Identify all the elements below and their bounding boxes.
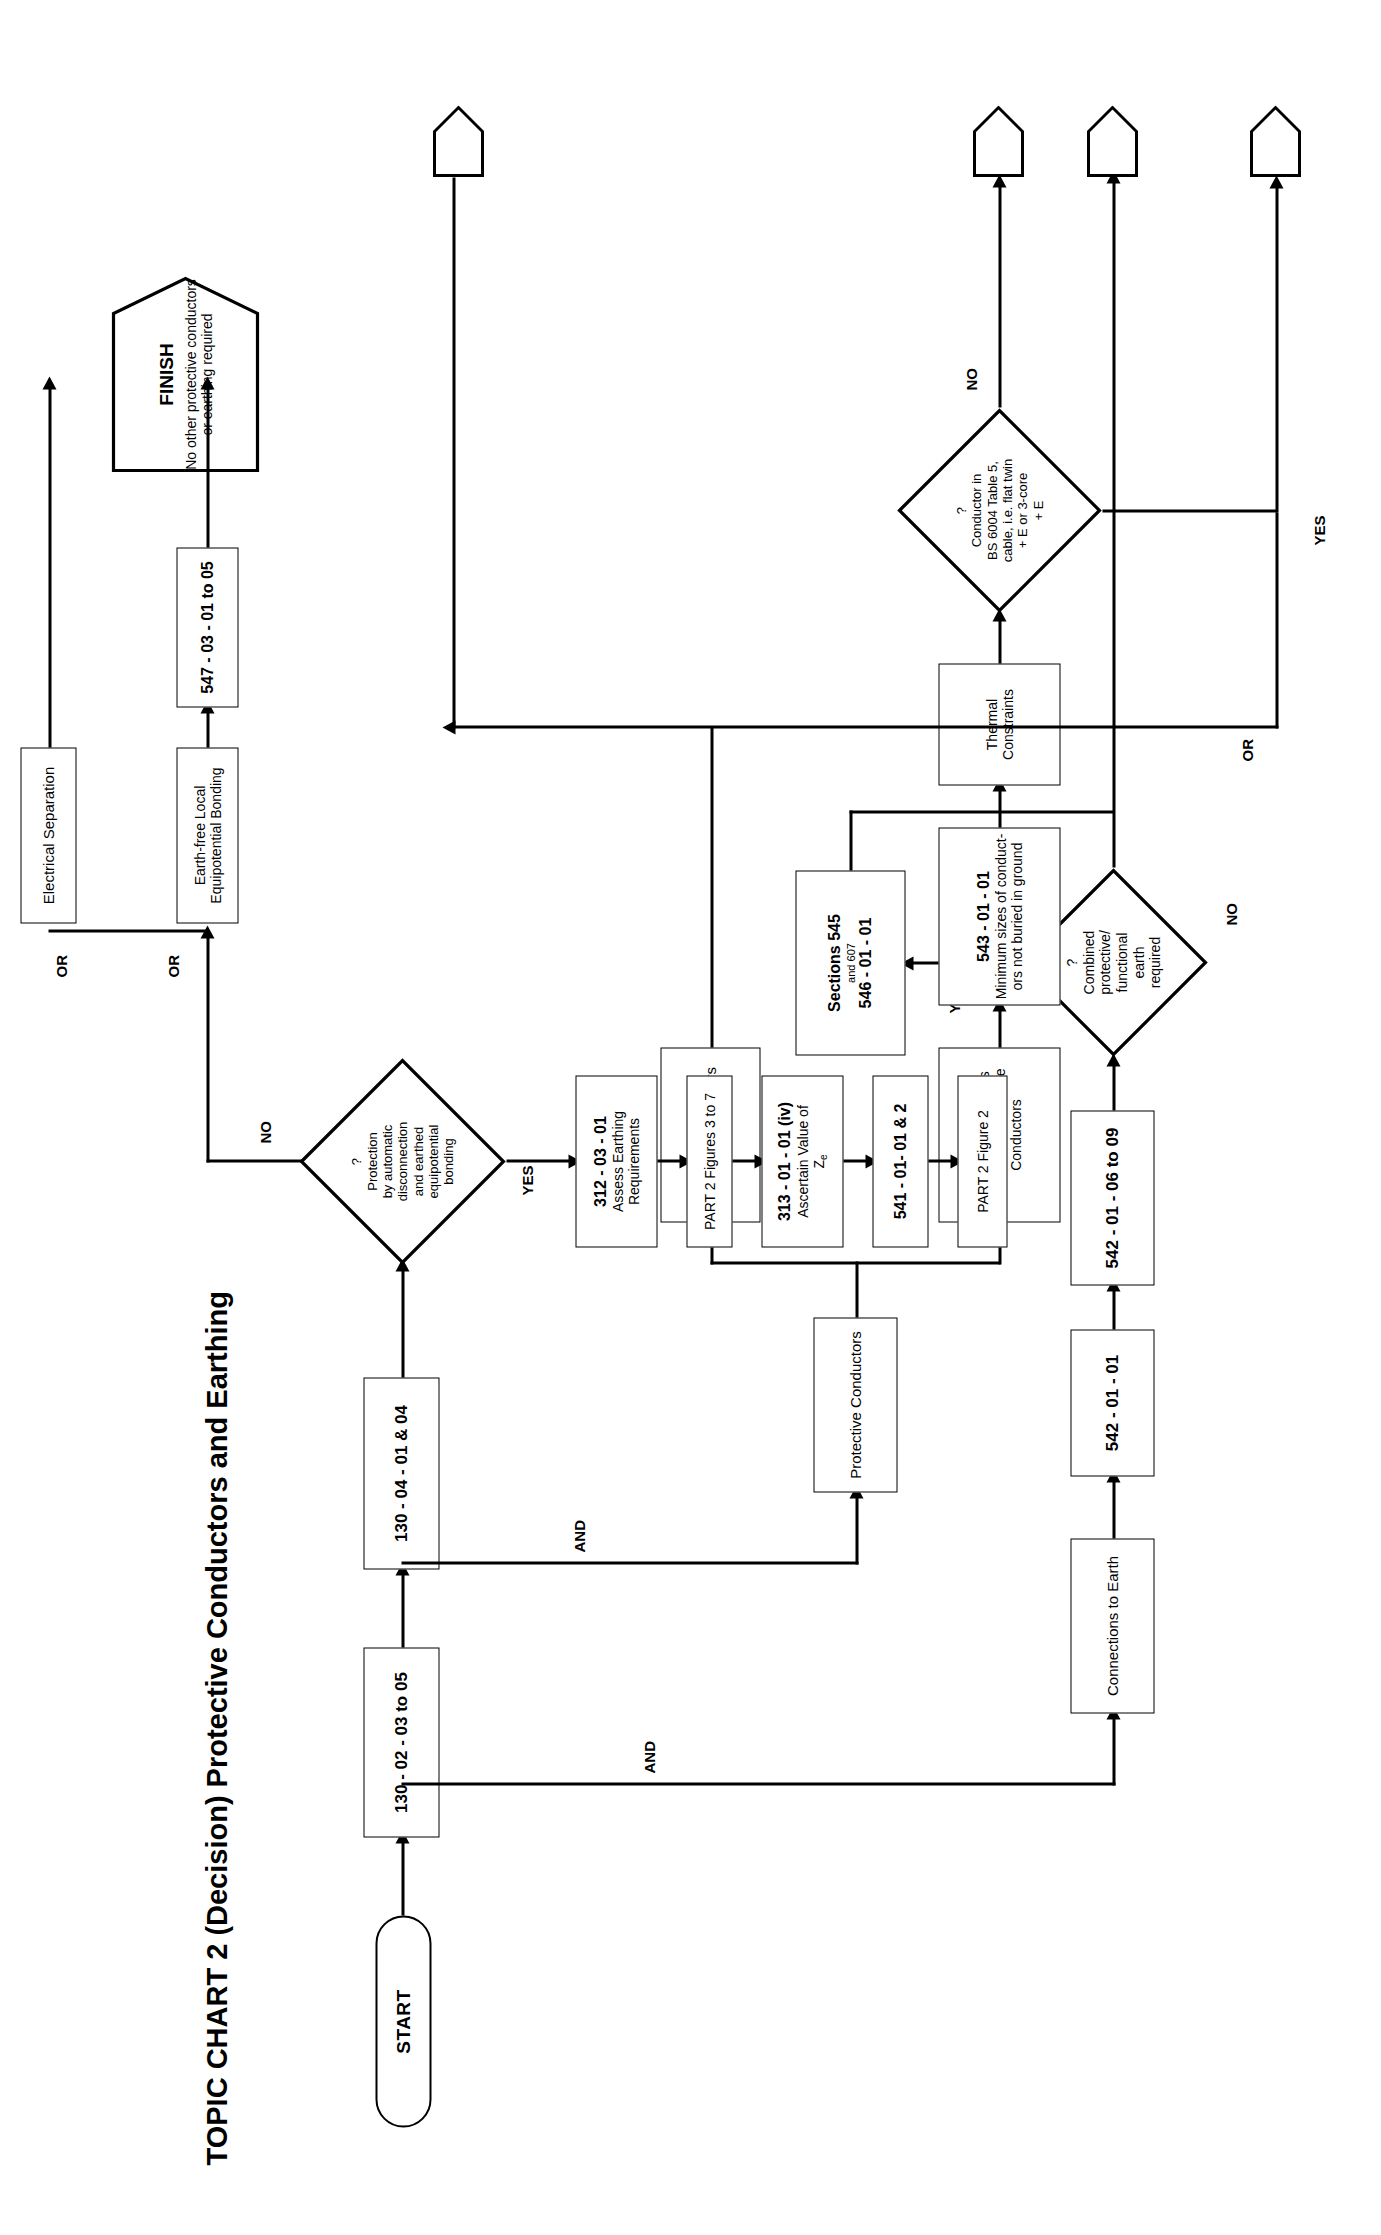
page-title: TOPIC CHART 2 (Decision) Protective Cond… bbox=[200, 1291, 233, 2165]
node-line: 312 - 03 - 01 bbox=[591, 1116, 609, 1207]
offpage-connector-4 bbox=[432, 105, 484, 177]
node-line: Ze bbox=[810, 1154, 829, 1168]
node-thermal-constraints: Thermal Constraints bbox=[938, 663, 1060, 785]
edge-start-to-ref1 bbox=[401, 1837, 404, 1915]
decision-line: required bbox=[1146, 936, 1163, 987]
and-label-1: AND bbox=[640, 1741, 657, 1774]
decision-protection-ads: ? Protection by automatic disconnection … bbox=[298, 1057, 506, 1265]
finish-title: FINISH bbox=[155, 343, 178, 405]
node-line: Requirements bbox=[625, 1117, 641, 1204]
node-part2-figure-2: PART 2 Figure 2 bbox=[957, 1075, 1007, 1247]
decision-line: BS 6004 Table 5, bbox=[984, 461, 999, 560]
offpage-connector-3 bbox=[972, 105, 1024, 177]
yes-label-bs6004: YES bbox=[1310, 515, 1327, 545]
edge-ref2-to-decision bbox=[401, 1265, 404, 1377]
node-label: Electrical Separation bbox=[39, 766, 56, 904]
node-line: 543 - 01 - 01 bbox=[974, 871, 992, 962]
node-ref-130-04: 130 - 04 - 01 & 04 bbox=[363, 1377, 439, 1569]
decision-line: earth bbox=[1130, 946, 1147, 978]
decision-line: + E bbox=[1030, 500, 1045, 520]
decision-line: disconnection bbox=[394, 1121, 409, 1201]
and-label-2: AND bbox=[570, 1520, 587, 1553]
node-ref-542-01-06: 542 - 01 - 06 to 09 bbox=[1070, 1110, 1154, 1285]
edge-to-finish-1 bbox=[206, 383, 209, 547]
decision-question-mark: ? bbox=[348, 1157, 363, 1164]
start-terminator: START bbox=[375, 1915, 431, 2127]
node-sections-545-607: Sections 545 and 607 546 - 01 - 01 bbox=[795, 870, 905, 1055]
edge-and2-horizontal bbox=[855, 1492, 858, 1564]
edge-no-to-offpage-1 bbox=[1112, 177, 1115, 867]
node-line: and 607 bbox=[844, 943, 857, 983]
decision-bs6004: ? Conductor in BS 6004 Table 5, cable, i… bbox=[896, 407, 1102, 613]
node-label: PART 2 Figure 2 bbox=[974, 1110, 990, 1213]
edge-bs6004-no bbox=[998, 181, 1001, 407]
node-line: Ascertain Value of bbox=[794, 1105, 810, 1218]
edge-main-no-h bbox=[206, 932, 209, 1162]
node-line: 313 - 01 - 01 (iv) bbox=[775, 1101, 793, 1220]
node-line: Assess Earthing bbox=[609, 1110, 625, 1211]
node-label: Connections to Earth bbox=[1103, 1555, 1120, 1695]
edge-to-finish-2 bbox=[48, 383, 51, 747]
node-label: 130 - 04 - 01 & 04 bbox=[391, 1404, 411, 1541]
edge-or-spine-h bbox=[1275, 512, 1278, 728]
edge-to-offpage-4 bbox=[452, 177, 455, 728]
node-ref-130-02: 130 - 02 - 03 to 05 bbox=[363, 1647, 439, 1837]
node-connections-to-earth: Connections to Earth bbox=[1070, 1538, 1154, 1713]
node-label: Thermal Constraints bbox=[983, 667, 1015, 781]
node-line: Earth-free Local bbox=[191, 785, 207, 885]
edge-545-down bbox=[849, 810, 1113, 813]
node-ref-541-01-01: 541 - 01- 01 & 2 bbox=[872, 1075, 928, 1247]
decision-line: protective/ bbox=[1096, 930, 1113, 995]
decision-line: Conductor in bbox=[968, 473, 983, 547]
edge-bs6004-yes bbox=[1102, 509, 1277, 512]
finish-text: No other protective conductors or earthi… bbox=[182, 275, 216, 473]
edge-and1-vertical bbox=[401, 1782, 1115, 1785]
decision-line: equipotential bbox=[425, 1124, 440, 1198]
edge bbox=[855, 1261, 858, 1317]
flowchart-sheet: TOPIC CHART 2 (Decision) Protective Cond… bbox=[0, 0, 1381, 2235]
node-earth-free-bonding: Earth-free Local Equipotential Bonding bbox=[176, 747, 238, 923]
node-label: 542 - 01 - 01 bbox=[1102, 1354, 1122, 1450]
node-label: 547 - 03 - 01 to 05 bbox=[198, 561, 216, 694]
edge bbox=[1112, 1285, 1115, 1329]
edge-split-vertical bbox=[710, 1261, 1000, 1264]
node-ref-543-01-01: 543 - 01 - 01 Minimum sizes of conduct- … bbox=[938, 827, 1060, 1005]
edge-and2-vertical bbox=[401, 1561, 858, 1564]
decision-question-mark: ? bbox=[953, 506, 968, 513]
edge-or-up bbox=[48, 929, 206, 932]
edge bbox=[1112, 1060, 1115, 1110]
or-label-2: OR bbox=[52, 955, 69, 978]
node-ref-313-01-01: 313 - 01 - 01 (iv) Ascertain Value of Ze bbox=[761, 1075, 843, 1247]
decision-line: Protection bbox=[364, 1132, 379, 1191]
decision-line: Combined bbox=[1080, 930, 1097, 994]
node-label: PART 2 Figures 3 to 7 bbox=[701, 1093, 717, 1230]
edge-and1-horizontal bbox=[1112, 1713, 1115, 1785]
node-line: 546 - 01 - 01 bbox=[856, 917, 874, 1008]
arrowhead bbox=[42, 376, 56, 389]
no-label-bs6004: NO bbox=[962, 368, 979, 391]
edge-main-yes bbox=[506, 1159, 572, 1162]
decision-line: functional bbox=[1113, 932, 1130, 992]
node-label: 542 - 01 - 06 to 09 bbox=[1102, 1127, 1122, 1268]
decision-line: cable, i.e. flat twin bbox=[999, 458, 1014, 561]
offpage-connector-1 bbox=[1086, 105, 1138, 177]
decision-line: and earthed bbox=[410, 1126, 425, 1195]
decision-line: bonding bbox=[440, 1138, 455, 1184]
edge-or-spine-vertical bbox=[452, 725, 1278, 728]
no-label-main: NO bbox=[256, 1121, 273, 1144]
node-line: Minimum sizes of conduct- bbox=[992, 833, 1008, 999]
edge bbox=[998, 615, 1001, 663]
finish-terminator: FINISH No other protective conductors or… bbox=[110, 275, 260, 473]
node-line: Sections 545 bbox=[825, 914, 843, 1012]
or-label-1: OR bbox=[164, 955, 181, 978]
node-line: Conductors bbox=[1007, 1099, 1023, 1171]
node-ref-547-03-01: 547 - 03 - 01 to 05 bbox=[176, 547, 238, 707]
node-ref-312-03-01: 312 - 03 - 01 Assess Earthing Requiremen… bbox=[575, 1075, 657, 1247]
node-part2-figures-3-7: PART 2 Figures 3 to 7 bbox=[686, 1075, 732, 1247]
edge-ref1-to-ref2 bbox=[401, 1569, 404, 1647]
node-protective-conductors: Protective Conductors bbox=[813, 1317, 897, 1492]
edge-bs6004-yes-h bbox=[1275, 182, 1278, 512]
node-electrical-separation: Electrical Separation bbox=[20, 747, 76, 923]
node-line: ors not buried in ground bbox=[1008, 842, 1024, 990]
offpage-connector-2 bbox=[1249, 105, 1301, 177]
